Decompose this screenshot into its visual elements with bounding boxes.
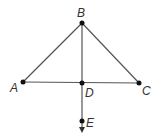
geometry-diagram: B A C D E xyxy=(0,0,158,138)
point-B xyxy=(80,21,85,26)
point-C xyxy=(137,81,142,86)
label-A: A xyxy=(9,81,18,95)
segment-BC xyxy=(82,23,139,83)
diagram-svg: B A C D E xyxy=(0,0,158,138)
point-D xyxy=(80,81,85,86)
label-C: C xyxy=(142,84,151,98)
label-D: D xyxy=(85,86,94,100)
label-E: E xyxy=(86,116,95,130)
point-A xyxy=(21,80,26,85)
label-B: B xyxy=(77,6,85,20)
segment-AB xyxy=(23,23,82,82)
point-E xyxy=(80,119,85,124)
arrow-down-icon xyxy=(79,127,85,133)
